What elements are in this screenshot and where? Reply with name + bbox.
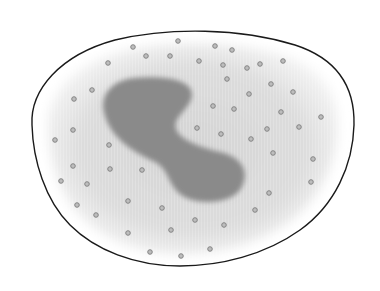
granule <box>195 126 200 131</box>
granule <box>258 62 263 67</box>
granule <box>222 223 227 228</box>
granule <box>197 59 202 64</box>
granule <box>279 110 284 115</box>
granule <box>232 107 237 112</box>
granule <box>219 132 224 137</box>
granule <box>253 208 258 213</box>
cell-diagram <box>0 0 380 291</box>
granule <box>213 44 218 49</box>
granule <box>168 54 173 59</box>
granule <box>107 143 112 148</box>
granule <box>108 167 113 172</box>
granule <box>311 157 316 162</box>
granule <box>221 63 226 68</box>
granule <box>140 168 145 173</box>
granule <box>148 250 153 255</box>
granule <box>71 164 76 169</box>
granule <box>265 127 270 132</box>
granule <box>126 199 131 204</box>
granule <box>131 45 136 50</box>
granule <box>53 138 58 143</box>
granule <box>94 213 99 218</box>
granule <box>179 254 184 259</box>
granule <box>230 48 235 53</box>
granule <box>249 137 254 142</box>
granule <box>193 218 198 223</box>
granule <box>106 61 111 66</box>
granule <box>208 247 213 252</box>
granule <box>281 59 286 64</box>
granule <box>245 66 250 71</box>
granule <box>267 191 272 196</box>
granule <box>71 128 76 133</box>
granule <box>309 180 314 185</box>
granule <box>211 104 216 109</box>
granule <box>319 115 324 120</box>
granule <box>176 39 181 44</box>
granule <box>169 228 174 233</box>
granule <box>85 182 90 187</box>
granule <box>291 90 296 95</box>
granule <box>75 203 80 208</box>
cell-illustration <box>0 0 380 291</box>
granule <box>90 88 95 93</box>
granule <box>225 77 230 82</box>
granule <box>59 179 64 184</box>
granule <box>160 206 165 211</box>
granule <box>72 97 77 102</box>
granule <box>269 82 274 87</box>
granule <box>247 92 252 97</box>
granule <box>144 54 149 59</box>
granule <box>297 125 302 130</box>
granule <box>271 151 276 156</box>
granule <box>126 231 131 236</box>
